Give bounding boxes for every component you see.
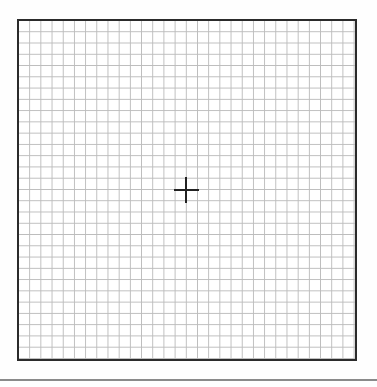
canvas-stage bbox=[0, 0, 377, 387]
crosshair-icon bbox=[174, 177, 199, 203]
bottom-divider bbox=[0, 379, 377, 381]
crosshair-vertical-bar bbox=[185, 177, 187, 203]
